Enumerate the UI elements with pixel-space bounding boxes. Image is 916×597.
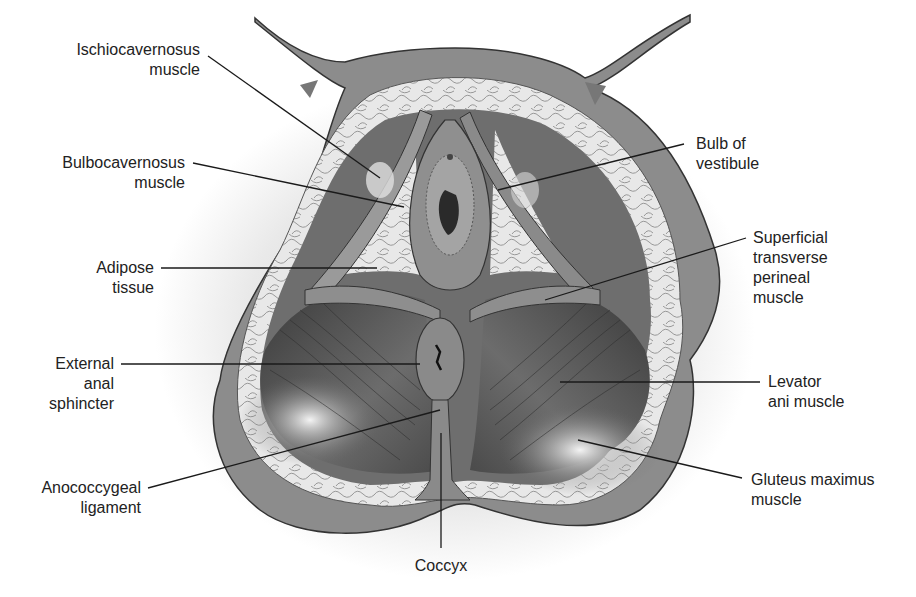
label-text: Superficial (753, 228, 828, 248)
label-text: Bulb of (696, 134, 759, 154)
label-text: Anococcygeal (5, 478, 141, 498)
label-text: sphincter (10, 394, 114, 414)
label-text: muscle (753, 288, 828, 308)
label-gluteus-maximus-muscle: Gluteus maximus muscle (751, 470, 875, 510)
label-text: Bulbocavernosus (5, 153, 185, 173)
urethral-orifice (447, 154, 453, 160)
label-text: External (10, 354, 114, 374)
label-text: tissue (20, 278, 154, 298)
external-anal-sphincter (416, 318, 464, 402)
label-text: Coccyx (401, 556, 481, 576)
label-text: perineal (753, 268, 828, 288)
label-text: Adipose (20, 258, 154, 278)
label-levator-ani-muscle: Levator ani muscle (768, 372, 844, 412)
label-text: ani muscle (768, 392, 844, 412)
label-superficial-transverse-perineal-muscle: Superficial transverse perineal muscle (753, 228, 828, 308)
label-adipose-tissue: Adipose tissue (20, 258, 154, 298)
label-ischiocavernosus-muscle: Ischiocavernosus muscle (20, 40, 200, 80)
label-coccyx: Coccyx (401, 556, 481, 576)
perineum-diagram: Ischiocavernosus muscle Bulbocavernosus … (0, 0, 916, 597)
label-text: Gluteus maximus (751, 470, 875, 490)
label-text: ligament (5, 498, 141, 518)
label-text: muscle (751, 490, 875, 510)
label-text: muscle (5, 173, 185, 193)
label-text: vestibule (696, 154, 759, 174)
label-bulbocavernosus-muscle: Bulbocavernosus muscle (5, 153, 185, 193)
label-anococcygeal-ligament: Anococcygeal ligament (5, 478, 141, 518)
highlight (366, 162, 394, 198)
skin-fold-left (300, 80, 318, 98)
highlight (511, 172, 539, 208)
label-text: anal (10, 374, 114, 394)
gluteus-left (240, 375, 380, 465)
label-text: muscle (20, 60, 200, 80)
label-bulb-of-vestibule: Bulb of vestibule (696, 134, 759, 174)
label-external-anal-sphincter: External anal sphincter (10, 354, 114, 414)
label-text: transverse (753, 248, 828, 268)
label-text: Ischiocavernosus (20, 40, 200, 60)
label-text: Levator (768, 372, 844, 392)
